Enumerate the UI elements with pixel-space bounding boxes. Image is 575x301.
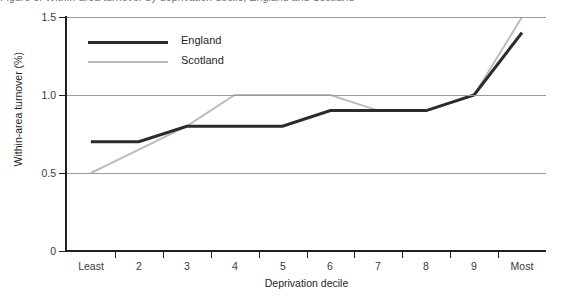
legend-label-england: England (181, 34, 221, 46)
y-tick-label: 1.0 (16, 90, 56, 101)
legend-swatch-scotland (88, 61, 168, 63)
y-tick-mark (59, 17, 66, 18)
y-tick-label: 0 (16, 246, 56, 257)
x-tick-label: Most (492, 261, 552, 272)
line-chart: Within-area turnover (%) 00.51.01.5 Leas… (0, 0, 575, 301)
x-tick-mark (354, 252, 355, 258)
y-tick-label: 1.5 (16, 12, 56, 23)
x-tick-mark (307, 252, 308, 258)
gridline-0-5 (67, 173, 546, 174)
legend-swatch-england (88, 41, 168, 44)
y-tick-mark (59, 251, 66, 252)
x-tick-mark (163, 252, 164, 258)
y-tick-mark (59, 173, 66, 174)
x-tick-mark (402, 252, 403, 258)
x-axis-title: Deprivation decile (67, 278, 546, 289)
y-tick-label: 0.5 (16, 168, 56, 179)
chart-legend: England Scotland (88, 33, 288, 73)
x-tick-mark (498, 252, 499, 258)
y-tick-mark (59, 95, 66, 96)
x-tick-mark (211, 252, 212, 258)
x-tick-mark (450, 252, 451, 258)
gridline-1-5 (67, 17, 546, 18)
x-tick-mark (115, 252, 116, 258)
legend-item-england: England (88, 33, 288, 53)
gridline-1 (67, 95, 546, 96)
x-tick-mark (259, 252, 260, 258)
legend-item-scotland: Scotland (88, 53, 288, 73)
legend-label-scotland: Scotland (181, 54, 224, 66)
